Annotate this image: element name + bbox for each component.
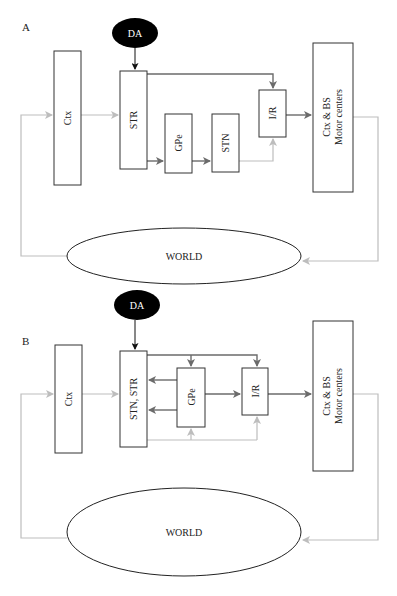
ctx-label: Ctx bbox=[63, 392, 74, 406]
ir-label: I/R bbox=[250, 384, 261, 397]
motor-label-line2: Motor centers bbox=[333, 89, 344, 145]
panel-label-b: B bbox=[22, 335, 29, 347]
panel-a: A DA Ctx STR GPe STN I/R Ctx & BS Motor … bbox=[21, 18, 378, 284]
gpe-label: GPe bbox=[173, 134, 184, 152]
stn-label: STN bbox=[220, 134, 231, 153]
motor-label-line2: Motor centers bbox=[333, 368, 344, 424]
gpe-label: GPe bbox=[186, 388, 197, 406]
stn-to-ir-arrow bbox=[239, 139, 273, 161]
stnstr-label: STN, STR bbox=[128, 378, 139, 421]
stnstr-to-ir-arrow bbox=[147, 355, 257, 366]
world-label: WORLD bbox=[166, 527, 203, 538]
str-to-ir-arrow bbox=[147, 74, 273, 88]
ctx-label: Ctx bbox=[62, 111, 73, 125]
basal-ganglia-diagram: A DA Ctx STR GPe STN I/R Ctx & BS Motor … bbox=[0, 0, 397, 596]
da-label: DA bbox=[128, 28, 143, 39]
da-label: DA bbox=[130, 300, 145, 311]
world-label: WORLD bbox=[166, 251, 203, 262]
motor-label-line1: Ctx & BS bbox=[321, 376, 332, 415]
motor-label-line1: Ctx & BS bbox=[321, 97, 332, 136]
panel-label-a: A bbox=[22, 21, 30, 33]
str-label: STR bbox=[128, 111, 139, 130]
panel-b: B DA Ctx STN, STR GPe I/R Ctx & BS Motor… bbox=[21, 290, 378, 576]
ir-label: I/R bbox=[267, 106, 278, 119]
